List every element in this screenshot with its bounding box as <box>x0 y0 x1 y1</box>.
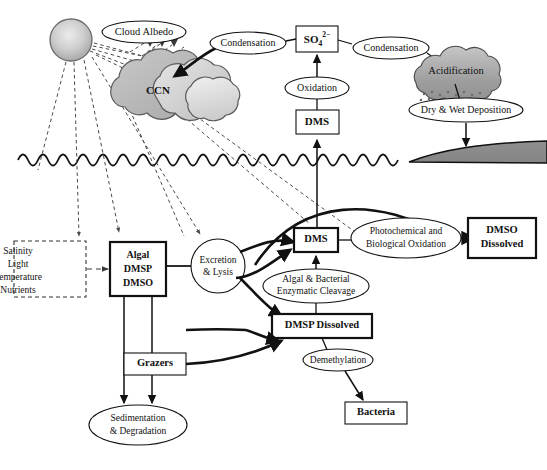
cloud-albedo-node[interactable]: Cloud Albedo <box>102 21 186 43</box>
sedimentation-label-line2: & Degradation <box>110 426 167 436</box>
cloud-albedo-label: Cloud Albedo <box>115 26 174 37</box>
dms-sea-node[interactable]: DMS <box>294 228 338 252</box>
lower-left-feed-line <box>186 329 246 330</box>
diagram-canvas: CCN Cloud Albedo Condensation SO42− Cond… <box>0 0 547 470</box>
dms-air-node[interactable]: DMS <box>296 110 339 134</box>
oxidation-label: Oxidation <box>297 82 337 93</box>
algal-line-1: Algal <box>127 249 150 260</box>
sedimentation-node[interactable]: Sedimentation & Degradation <box>89 405 187 445</box>
enzymatic-cleavage-node[interactable]: Algal & Bacterial Enzymatic Cleavage <box>263 269 369 303</box>
ocean-surface-wave <box>18 155 398 166</box>
algal-line-3: DMSO <box>123 277 153 288</box>
sulfate-superscript: 2− <box>322 29 330 38</box>
demethylation-label: Demethylation <box>310 355 367 365</box>
sulfate-base: SO <box>304 33 319 45</box>
drivers-line-salinity: Salinity <box>3 246 33 256</box>
dms-sea-label: DMS <box>304 233 327 244</box>
sedimentation-label-line1: Sedimentation <box>111 413 166 423</box>
condensation-right-label: Condensation <box>364 42 419 53</box>
drivers-node[interactable]: Salinity Light Temperature Nutrients <box>0 241 86 297</box>
photochemical-ellipse[interactable] <box>351 218 461 258</box>
deposition-label: Dry & Wet Deposition <box>421 104 511 115</box>
acidification-label: Acidification <box>428 65 484 76</box>
bacteria-node[interactable]: Bacteria <box>345 402 407 424</box>
dmsp-dissolved-label: DMSP Dissolved <box>285 319 360 330</box>
photochemical-label-line2: Biological Oxidation <box>366 239 446 249</box>
excretion-node[interactable]: Excretion & Lysis <box>191 239 245 293</box>
grazers-label: Grazers <box>137 357 173 368</box>
enzymatic-cleavage-label-line2: Enzymatic Cleavage <box>277 286 355 296</box>
condensation-left-label: Condensation <box>221 37 276 48</box>
diagram-svg: CCN Cloud Albedo Condensation SO42− Cond… <box>0 0 547 470</box>
sulfate-node[interactable]: SO42− <box>296 26 338 52</box>
dmso-dissolved-label-line1: DMSO <box>486 224 518 235</box>
bacteria-label: Bacteria <box>357 406 396 417</box>
excretion-label-line1: Excretion <box>200 255 237 265</box>
dmso-dissolved-node[interactable]: DMSO Dissolved <box>468 218 536 258</box>
oxidation-node[interactable]: Oxidation <box>285 77 349 99</box>
sulfate-to-condensation-right-line <box>338 40 352 44</box>
sulfate-subscript: 4 <box>318 38 322 47</box>
sedimentation-ellipse[interactable] <box>89 405 187 445</box>
algal-line-2: DMSP <box>124 263 152 274</box>
ccn-label: CCN <box>146 84 170 96</box>
algal-node[interactable]: Algal DMSP DMSO <box>110 242 166 296</box>
condensation-left-node[interactable]: Condensation <box>210 32 286 54</box>
landmass <box>409 141 547 163</box>
dmsp-dissolved-node[interactable]: DMSP Dissolved <box>272 314 372 338</box>
grazers-to-dmsp-dissolved-arrow <box>186 341 281 364</box>
drivers-line-nutrients: Nutrients <box>0 285 36 295</box>
demethylation-node[interactable]: Demethylation <box>303 349 373 371</box>
drivers-line-temperature: Temperature <box>0 272 42 282</box>
dmso-dissolved-label-line2: Dissolved <box>481 238 524 249</box>
condensation-left-to-sulfate-line <box>286 39 296 41</box>
photochemical-label-line1: Photochemical and <box>370 226 443 236</box>
grazers-node[interactable]: Grazers <box>124 353 186 375</box>
sun-icon <box>50 19 92 61</box>
drivers-line-light: Light <box>8 259 29 269</box>
dms-air-label: DMS <box>305 115 329 127</box>
demethylation-to-bacteria-arrow <box>345 371 363 400</box>
enzymatic-cleavage-label-line1: Algal & Bacterial <box>282 274 350 284</box>
excretion-label-line2: & Lysis <box>203 267 233 277</box>
photochemical-node[interactable]: Photochemical and Biological Oxidation <box>351 218 461 258</box>
excretion-circle[interactable] <box>191 239 245 293</box>
deposition-node[interactable]: Dry & Wet Deposition <box>409 98 523 122</box>
condensation-right-node[interactable]: Condensation <box>353 37 429 59</box>
